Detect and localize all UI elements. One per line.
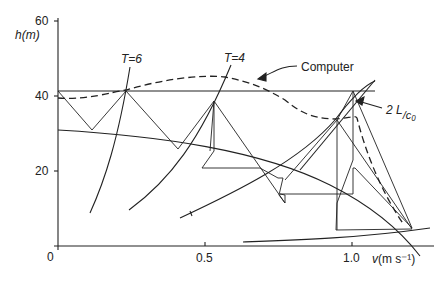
y-tick-60-label: 60 xyxy=(35,14,48,28)
computer-label: Computer xyxy=(301,60,354,74)
x-tick-0-label: 0 xyxy=(47,250,54,264)
y-axis-label: h(m) xyxy=(15,28,40,42)
x-axis-unit: (m s⁻¹) xyxy=(378,252,415,266)
period-label-c0: /c₀ xyxy=(403,109,416,121)
period-label: 2 L/c₀ xyxy=(386,103,416,117)
construction-d xyxy=(285,120,337,180)
right-steep-line xyxy=(300,80,375,170)
x-tick-05-label: 0.5 xyxy=(196,251,213,265)
computer-arrowhead xyxy=(258,73,266,81)
period-label-2l: 2 L xyxy=(386,103,403,117)
x-axis-label: v(m s⁻¹) xyxy=(372,252,415,266)
t6-label: T=6 xyxy=(121,52,142,66)
t4-label: T=4 xyxy=(224,51,245,65)
zigzag-construction xyxy=(58,91,412,230)
y-axis-label-text: h(m) xyxy=(15,28,40,42)
construction-a xyxy=(214,101,285,203)
x-tick-10-label: 1.0 xyxy=(343,251,360,265)
y-tick-40-label: 40 xyxy=(35,89,48,103)
t6-curve xyxy=(90,67,130,213)
y-tick-20-label: 20 xyxy=(35,164,48,178)
rising-curve xyxy=(180,81,375,218)
characteristics-chart xyxy=(0,0,448,289)
